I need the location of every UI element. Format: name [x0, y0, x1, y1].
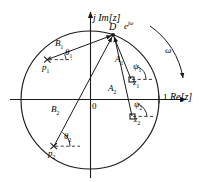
vector-A2-label: A2: [108, 84, 116, 95]
vector-B2-label: B2: [51, 105, 59, 116]
pole-p2-label: p2: [48, 149, 55, 160]
pole-p1-label: p1: [42, 63, 49, 74]
zero-z2-label: z2: [134, 115, 140, 126]
angle-psi2-label: ψ2: [134, 100, 142, 111]
vector-A1-label: A1: [115, 55, 123, 66]
real-axis-tick-label: 1: [163, 93, 168, 102]
point-D-label: D: [109, 22, 116, 32]
angle-theta2-label: θ2: [64, 132, 71, 143]
omega-label: ω: [165, 46, 171, 55]
evaluation-point-D: [111, 33, 115, 37]
real-axis-label: Re[z]: [170, 92, 192, 102]
angle-psi1-label: ψ1: [133, 62, 141, 73]
origin-label: 0: [92, 102, 97, 111]
angle-theta1-label: θ1: [65, 48, 72, 59]
exponential-label: ejω: [124, 21, 134, 31]
imaginary-axis-label: j Im[z]: [93, 13, 121, 23]
vector-B1-label: B1: [55, 39, 63, 50]
z-plane-pole-zero-diagram: j Im[z] 1 Re[z] 0 D ejω ω B1 B2 A1 A2 θ1…: [0, 0, 205, 182]
zero-z1-label: z1: [133, 78, 139, 89]
